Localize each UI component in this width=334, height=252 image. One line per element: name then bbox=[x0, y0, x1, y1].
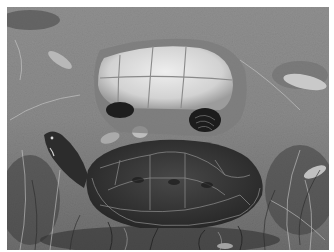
overturned-turtle bbox=[94, 39, 246, 136]
turtle-photo bbox=[7, 7, 329, 250]
